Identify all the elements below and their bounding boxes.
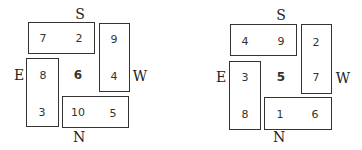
cell-value: 5 xyxy=(110,107,117,120)
right-box xyxy=(301,24,332,94)
cell-value: 10 xyxy=(71,106,85,119)
top-box xyxy=(28,22,95,54)
cell-value: 8 xyxy=(242,108,249,121)
cell-value: 6 xyxy=(312,108,319,121)
center-value: 5 xyxy=(277,70,285,84)
cell-value: 9 xyxy=(111,33,118,46)
cell-value: 4 xyxy=(242,35,249,48)
cell-value: 2 xyxy=(76,32,83,45)
direction-label-east: E xyxy=(216,69,226,85)
direction-label-north: N xyxy=(73,129,85,145)
direction-label-south: S xyxy=(75,6,85,22)
cell-value: 4 xyxy=(111,70,118,83)
bottom-box xyxy=(264,97,332,130)
direction-label-north: N xyxy=(273,129,285,145)
center-value: 6 xyxy=(74,68,82,82)
cell-value: 8 xyxy=(40,69,47,82)
magic-square-diagram-1: S N E W 7 2 9 4 8 3 10 5 6 xyxy=(0,0,181,150)
cell-value: 7 xyxy=(313,71,320,84)
cell-value: 9 xyxy=(278,35,285,48)
direction-label-west: W xyxy=(133,68,147,84)
direction-label-east: E xyxy=(14,67,24,83)
cell-value: 7 xyxy=(40,32,47,45)
top-box xyxy=(230,24,297,56)
direction-label-south: S xyxy=(276,7,286,23)
cell-value: 3 xyxy=(242,71,249,84)
cell-value: 1 xyxy=(277,108,284,121)
magic-square-diagram-2: S N E W 4 9 2 7 3 8 1 6 5 xyxy=(181,0,362,150)
cell-value: 3 xyxy=(39,106,46,119)
cell-value: 2 xyxy=(313,36,320,49)
direction-label-west: W xyxy=(336,70,350,86)
